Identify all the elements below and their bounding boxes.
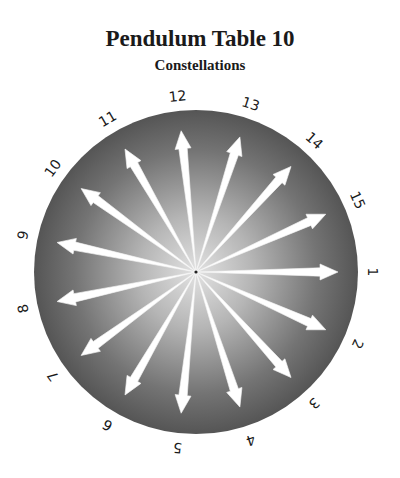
dial-label-9: 9 <box>14 229 32 241</box>
dial-label-3: 3 <box>306 395 323 413</box>
dial-label-1: 1 <box>365 268 381 277</box>
dial-label-13: 13 <box>240 93 262 114</box>
dial-label-7: 7 <box>44 368 62 385</box>
dial-label-10: 10 <box>41 156 64 180</box>
dial-label-12: 12 <box>168 87 187 105</box>
dial-label-6: 6 <box>100 416 116 434</box>
dial-label-5: 5 <box>172 440 183 457</box>
dial-label-11: 11 <box>96 107 119 130</box>
dial-label-4: 4 <box>244 431 258 449</box>
dial-label-14: 14 <box>302 129 326 153</box>
dial-label-8: 8 <box>14 303 32 315</box>
pendulum-dial: 123456789101112131415 <box>0 0 400 478</box>
dial-label-2: 2 <box>349 337 367 352</box>
center-dot <box>194 270 197 273</box>
dial-label-15: 15 <box>347 189 369 212</box>
